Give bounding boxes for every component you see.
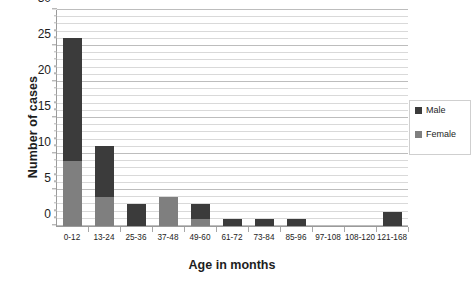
y-axis-title: Number of cases (26, 42, 40, 212)
x-axis-tick-label: 37-48 (152, 233, 184, 242)
x-axis-tickmark (88, 227, 120, 232)
x-axis-tickmark (248, 227, 280, 232)
legend-item-label: Female (426, 130, 456, 139)
bar-series-group (57, 10, 408, 226)
x-axis-tickmark (120, 227, 152, 232)
x-axis-tickmarks (56, 227, 408, 232)
x-axis-tick-label: 97-108 (312, 233, 344, 242)
x-axis-tick-label: 13-24 (88, 233, 120, 242)
legend-item[interactable]: Female (415, 130, 466, 139)
x-axis-tick-label: 73-84 (248, 233, 280, 242)
bar-segment-female[interactable] (95, 197, 114, 226)
bar-slot (121, 10, 153, 226)
bar-slot (217, 10, 249, 226)
y-axis-tick-label: 25 (9, 28, 51, 40)
bar-slot (89, 10, 121, 226)
x-axis-tick-label: 61-72 (216, 233, 248, 242)
legend-item-label: Male (426, 106, 446, 115)
bar-slot (344, 10, 376, 226)
bar-stack[interactable] (127, 204, 146, 226)
bar-segment-male[interactable] (223, 219, 242, 226)
legend-item[interactable]: Male (415, 106, 466, 115)
x-axis-tickmark (56, 227, 88, 232)
x-axis-tickmark (312, 227, 344, 232)
bar-segment-male[interactable] (127, 204, 146, 226)
x-axis-tickmark (376, 227, 408, 232)
x-axis-tick-label: 0-12 (56, 233, 88, 242)
bar-slot (376, 10, 408, 226)
plot-area: 051015202530 (56, 10, 408, 227)
x-axis-tickmark (184, 227, 216, 232)
bar-slot (248, 10, 280, 226)
bar-segment-male[interactable] (287, 219, 306, 226)
x-axis-tickmark (280, 227, 312, 232)
chart-legend: MaleFemale (409, 100, 471, 155)
bar-stack[interactable] (63, 38, 82, 226)
bar-segment-male[interactable] (95, 146, 114, 197)
bar-segment-female[interactable] (159, 197, 178, 226)
bar-stack[interactable] (95, 146, 114, 226)
x-axis-tick-label: 108-120 (344, 233, 376, 242)
x-axis-tick-label: 25-36 (120, 233, 152, 242)
bar-stack[interactable] (383, 212, 402, 226)
bar-stack[interactable] (159, 197, 178, 226)
bar-segment-male[interactable] (63, 38, 82, 161)
x-axis-tick-label: 49-60 (184, 233, 216, 242)
bar-slot (280, 10, 312, 226)
bar-segment-female[interactable] (191, 219, 210, 226)
x-axis-title: Age in months (56, 258, 408, 272)
x-axis-tickmark (216, 227, 248, 232)
bar-stack[interactable] (223, 219, 242, 226)
y-axis-tick-label: 30 (9, 0, 51, 4)
female-swatch-icon (415, 131, 422, 138)
bar-slot (57, 10, 89, 226)
bar-chart: Number of cases 051015202530 0-1213-2425… (0, 0, 472, 292)
x-axis-tickmark (344, 227, 376, 232)
x-axis-tick-label: 85-96 (280, 233, 312, 242)
bar-slot (185, 10, 217, 226)
bar-slot (312, 10, 344, 226)
x-axis-tick-label: 121-168 (376, 233, 408, 242)
bar-stack[interactable] (287, 219, 306, 226)
x-axis-tick-labels: 0-1213-2425-3637-4849-6061-7273-8485-969… (56, 233, 408, 242)
bar-slot (153, 10, 185, 226)
x-axis-tickmark (152, 227, 184, 232)
male-swatch-icon (415, 107, 422, 114)
bar-stack[interactable] (255, 219, 274, 226)
bar-segment-male[interactable] (191, 204, 210, 218)
bar-stack[interactable] (191, 204, 210, 226)
bar-segment-male[interactable] (383, 212, 402, 226)
bar-segment-female[interactable] (63, 161, 82, 226)
bar-segment-male[interactable] (255, 219, 274, 226)
